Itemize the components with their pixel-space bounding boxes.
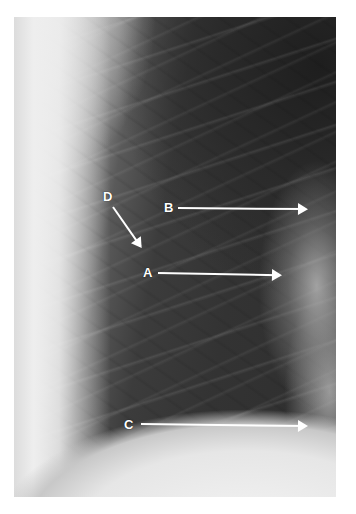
label-a: A xyxy=(143,266,152,279)
label-b: B xyxy=(164,201,173,214)
label-c: C xyxy=(124,418,133,431)
label-d: D xyxy=(103,190,112,203)
